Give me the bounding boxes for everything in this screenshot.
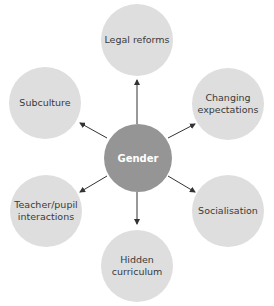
node-hidden-curriculum: Hidden curriculum <box>101 230 173 302</box>
arrow-to-changing-expectations <box>168 124 195 138</box>
node-label: Teacher/pupil interactions <box>14 199 77 223</box>
node-teacher-pupil-interactions: Teacher/pupil interactions <box>10 175 82 247</box>
node-label: Changing expectations <box>197 92 258 116</box>
center-node-gender: Gender <box>104 124 172 192</box>
node-label: Legal reforms <box>104 34 169 46</box>
center-label: Gender <box>118 153 159 164</box>
node-label: Subculture <box>19 97 70 109</box>
node-label: Hidden curriculum <box>112 254 163 278</box>
arrow-to-socialisation <box>168 176 195 192</box>
arrow-to-teacher-pupil-interactions <box>80 176 107 192</box>
node-label: Socialisation <box>198 205 258 217</box>
arrow-to-subculture <box>80 123 107 138</box>
node-subculture: Subculture <box>9 67 81 139</box>
node-socialisation: Socialisation <box>192 175 264 247</box>
node-legal-reforms: Legal reforms <box>101 4 173 76</box>
node-changing-expectations: Changing expectations <box>192 68 264 140</box>
